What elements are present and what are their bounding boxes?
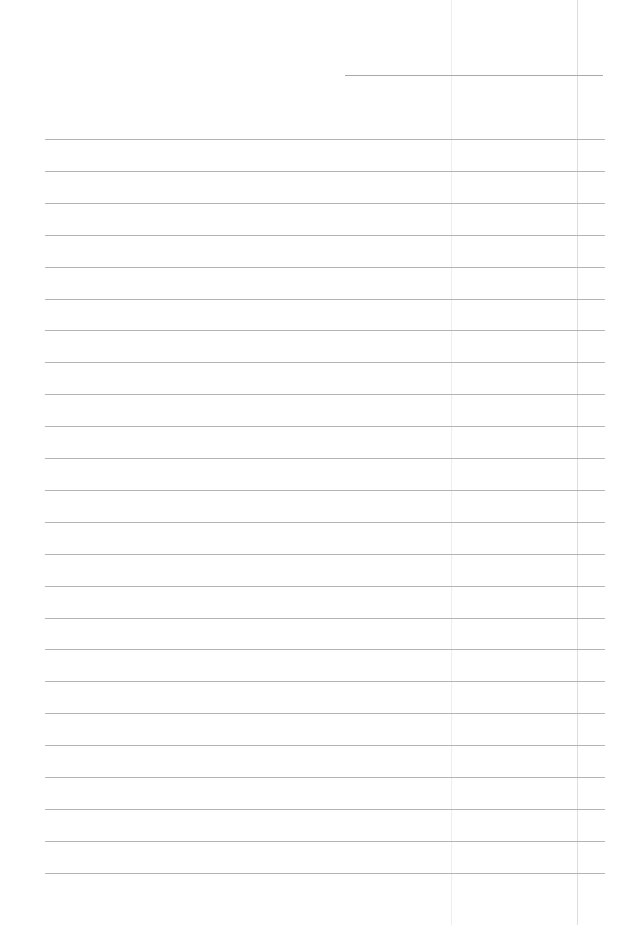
ruled-line: [45, 554, 605, 555]
ruled-line: [45, 267, 605, 268]
ruled-line: [45, 394, 605, 395]
ruled-line: [45, 299, 605, 300]
ruled-line: [45, 649, 605, 650]
ruled-line: [45, 873, 605, 874]
ruled-line: [45, 426, 605, 427]
ruled-line: [45, 841, 605, 842]
ruled-line: [45, 490, 605, 491]
header-line: [345, 75, 603, 76]
ruled-line: [45, 586, 605, 587]
ruled-line: [45, 809, 605, 810]
ruled-line: [45, 171, 605, 172]
ruled-line: [45, 330, 605, 331]
lined-paper-page: [0, 0, 633, 925]
ruled-line: [45, 618, 605, 619]
ruled-line: [45, 681, 605, 682]
ruled-line: [45, 713, 605, 714]
ruled-line: [45, 458, 605, 459]
ruled-line: [45, 203, 605, 204]
ruled-line: [45, 522, 605, 523]
ruled-line: [45, 362, 605, 363]
ruled-line: [45, 777, 605, 778]
ruled-line: [45, 235, 605, 236]
ruled-line: [45, 745, 605, 746]
ruled-line: [45, 139, 605, 140]
